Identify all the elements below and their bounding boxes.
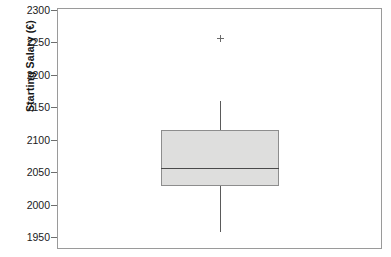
boxplot-figure: Starting Salary (€) 2300 2250 2200 2150 … — [0, 0, 391, 257]
y-tick-label-1950: 1950 — [4, 232, 50, 243]
y-tick-label-2250: 2250 — [4, 37, 50, 48]
y-tick-label-2150: 2150 — [4, 102, 50, 113]
y-tick-label-2050: 2050 — [4, 167, 50, 178]
plot-area-frame — [57, 8, 382, 249]
y-tick-label-2200: 2200 — [4, 70, 50, 81]
y-tick-label-2100: 2100 — [4, 134, 50, 145]
y-axis-tick-labels: 2300 2250 2200 2150 2100 2050 2000 1950 — [0, 0, 50, 257]
y-tick-label-2300: 2300 — [4, 5, 50, 16]
y-tick-label-2000: 2000 — [4, 199, 50, 210]
